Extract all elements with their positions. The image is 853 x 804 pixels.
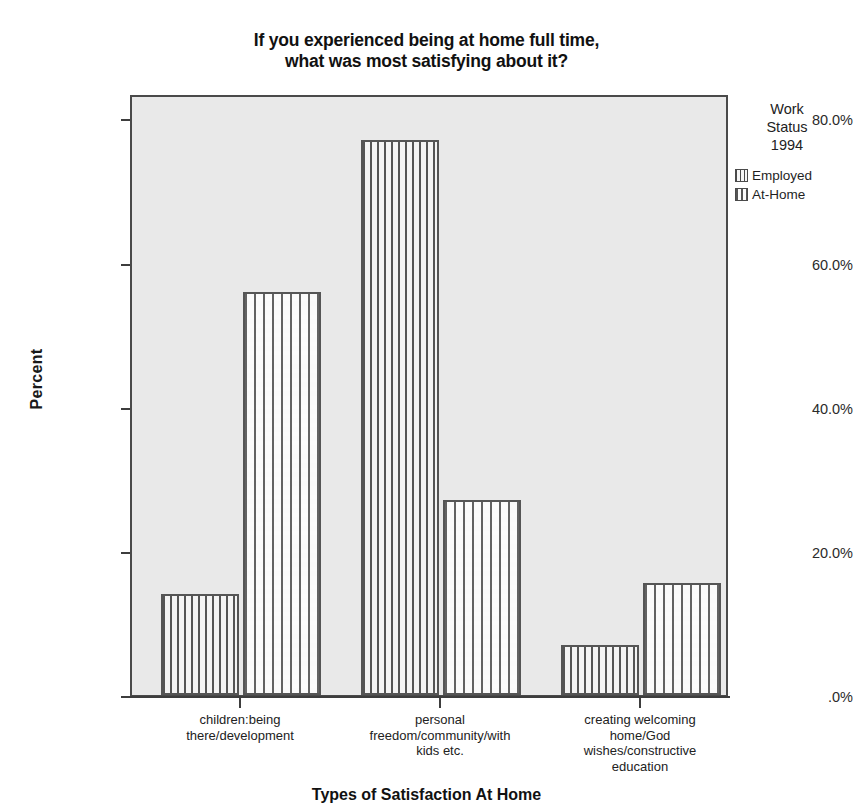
bars-container [132, 97, 726, 695]
legend-swatch-employed-icon [735, 169, 748, 182]
x-tick-label-children-line-2: there/development [135, 728, 345, 744]
x-tick-mark-2 [439, 697, 441, 708]
x-tick-label-personal-freedom-line-3: kids etc. [335, 743, 545, 759]
x-tick-mark-3 [639, 697, 641, 708]
x-tick-label-personal-freedom-line-1: personal [335, 712, 545, 728]
x-axis-title: Types of Satisfaction At Home [0, 786, 853, 804]
bar-athome-welcoming-home[interactable] [643, 583, 721, 695]
x-tick-label-welcoming-home-line-2: home/God [535, 728, 745, 744]
x-tick-mark-1 [239, 697, 241, 708]
chart-title-line-2: what was most satisfying about it? [0, 51, 853, 72]
x-tick-label-personal-freedom-line-2: freedom/community/with [335, 728, 545, 744]
legend-items: Employed At-Home [735, 166, 853, 203]
y-axis-title: Percent [28, 319, 46, 439]
y-tick-mark-80 [121, 119, 130, 121]
y-tick-label-20: 20.0% [743, 545, 853, 561]
legend: Work Status 1994 Employed At-Home [735, 100, 853, 204]
y-tick-mark-0 [121, 696, 130, 698]
bar-employed-children[interactable] [161, 594, 239, 695]
x-tick-label-welcoming-home-line-3: wishes/constructive [535, 743, 745, 759]
x-tick-label-personal-freedom: personal freedom/community/with kids etc… [335, 712, 545, 759]
y-tick-label-60: 60.0% [743, 257, 853, 273]
bar-athome-personal-freedom[interactable] [443, 500, 521, 695]
x-tick-label-welcoming-home: creating welcoming home/God wishes/const… [535, 712, 745, 774]
legend-title-line-3: 1994 [735, 136, 839, 154]
x-tick-label-welcoming-home-line-1: creating welcoming [535, 712, 745, 728]
x-tick-label-children: children:being there/development [135, 712, 345, 743]
y-tick-label-0: .0% [743, 689, 853, 705]
legend-title: Work Status 1994 [735, 100, 839, 154]
bar-employed-personal-freedom[interactable] [361, 140, 439, 695]
y-tick-label-40: 40.0% [743, 401, 853, 417]
legend-item-employed[interactable]: Employed [735, 166, 853, 184]
plot-area [130, 95, 728, 697]
legend-item-athome[interactable]: At-Home [735, 185, 853, 203]
legend-title-line-1: Work [735, 100, 839, 118]
chart-title-line-1: If you experienced being at home full ti… [0, 30, 853, 51]
y-tick-mark-20 [121, 552, 130, 554]
y-tick-mark-40 [121, 408, 130, 410]
x-tick-label-welcoming-home-line-4: education [535, 759, 745, 775]
y-tick-mark-60 [121, 264, 130, 266]
legend-label-athome: At-Home [752, 187, 805, 202]
bar-employed-welcoming-home[interactable] [561, 645, 639, 695]
chart-title: If you experienced being at home full ti… [0, 30, 853, 72]
legend-swatch-athome-icon [735, 188, 748, 201]
bar-athome-children[interactable] [243, 292, 321, 695]
legend-title-line-2: Status [735, 118, 839, 136]
legend-label-employed: Employed [752, 168, 812, 183]
x-tick-label-children-line-1: children:being [135, 712, 345, 728]
